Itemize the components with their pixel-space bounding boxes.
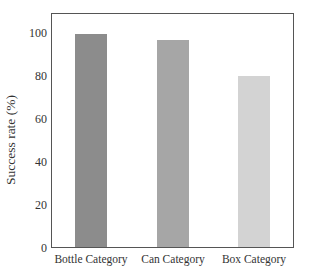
bar-bottle-category — [75, 34, 107, 247]
x-tick-box-category: Box Category — [199, 253, 309, 265]
y-tick-80: 80 — [35, 70, 47, 82]
plot-area — [51, 13, 294, 248]
y-tick-40: 40 — [35, 156, 47, 168]
y-axis-label: Success rate (%) — [3, 95, 19, 185]
bar-can-category — [157, 40, 189, 247]
y-tick-60: 60 — [35, 113, 47, 125]
bar-chart: Success rate (%) 0 20 40 60 80 100 Bottl… — [0, 0, 310, 278]
y-tick-20: 20 — [35, 199, 47, 211]
y-tick-100: 100 — [29, 27, 47, 39]
bar-box-category — [238, 76, 270, 247]
